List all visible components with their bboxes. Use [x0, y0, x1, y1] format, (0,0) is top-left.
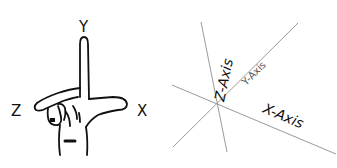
axes-illustration: Z-Axis Y-Axis X-Axis	[172, 22, 336, 154]
label-x: X	[137, 102, 147, 120]
y-axis-line	[173, 23, 298, 147]
label-z: Z	[11, 102, 21, 120]
x-axis-line	[172, 85, 336, 154]
ring-finger	[48, 106, 62, 125]
palm-crease-1	[66, 112, 70, 126]
wrist-left	[59, 125, 60, 155]
hand-illustration: Y Z X	[11, 18, 147, 155]
y-axis-label: Y-Axis	[239, 59, 268, 88]
label-y: Y	[78, 18, 89, 36]
fingernail	[50, 118, 55, 122]
index-finger	[80, 37, 89, 99]
palm-crease-2	[73, 106, 77, 119]
z-axis-label: Z-Axis	[211, 57, 236, 103]
thumb	[86, 97, 127, 127]
palm-crease-3	[79, 113, 80, 122]
wrist-right	[86, 127, 87, 155]
coordinate-diagram: Y Z X Z-Axis Y-Axis X-Axis	[0, 0, 337, 168]
x-axis-label: X-Axis	[260, 100, 306, 132]
